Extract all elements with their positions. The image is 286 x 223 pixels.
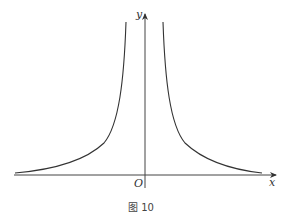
right-curve-branch — [163, 22, 262, 173]
origin-label: O — [134, 177, 143, 190]
y-axis-label: y — [135, 8, 143, 21]
left-curve-branch — [15, 22, 126, 173]
figure-caption: 图 10 — [128, 202, 154, 213]
x-axis-label: x — [269, 176, 276, 189]
function-graph: y x O 图 10 — [0, 0, 286, 223]
